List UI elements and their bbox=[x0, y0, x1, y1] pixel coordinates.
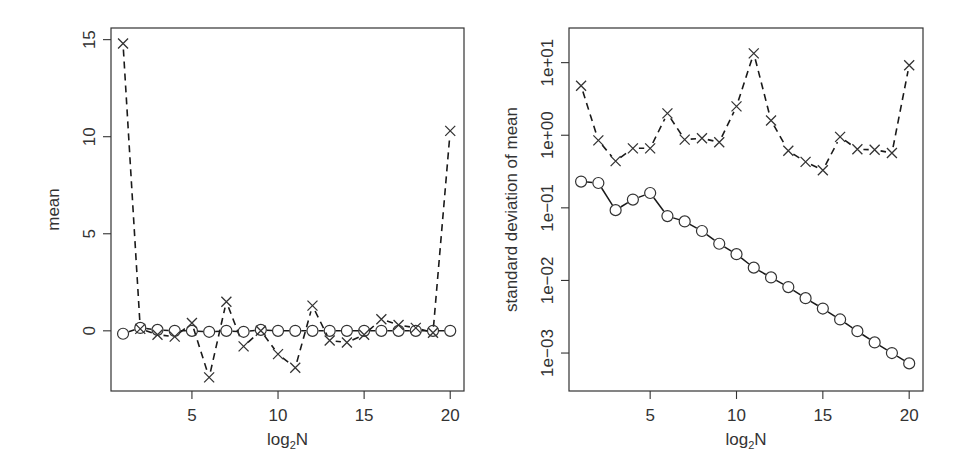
circle-marker bbox=[748, 262, 759, 273]
x-tick-label: 5 bbox=[187, 406, 196, 425]
mean-plot-y-label: mean bbox=[44, 188, 63, 231]
cross-marker bbox=[411, 323, 421, 333]
circle-marker bbox=[714, 238, 725, 249]
figure-canvas: 5101520 051015 mean log2N 5101520 1e−031… bbox=[0, 0, 967, 474]
circle-marker bbox=[783, 282, 794, 293]
circle-marker bbox=[645, 188, 656, 199]
y-tick-label: 0 bbox=[80, 326, 99, 335]
circle-marker bbox=[800, 293, 811, 304]
circle-marker bbox=[593, 177, 604, 188]
series-line bbox=[587, 182, 904, 360]
cross-marker bbox=[593, 135, 603, 145]
sd-plot-frame bbox=[569, 28, 923, 391]
x-tick-label: 20 bbox=[441, 406, 460, 425]
x-tick-label: 20 bbox=[900, 406, 919, 425]
y-tick-label: 5 bbox=[80, 229, 99, 238]
x-tick-label: 10 bbox=[727, 406, 746, 425]
cross-marker bbox=[766, 115, 776, 125]
circle-marker bbox=[152, 324, 163, 335]
cross-marker bbox=[118, 39, 128, 49]
cross-marker bbox=[662, 108, 672, 118]
mean-plot-x-label: log2N bbox=[267, 430, 308, 451]
sd-plot-y-axis: 1e−031e−021e−011e+001e+01 bbox=[538, 39, 569, 377]
cross-marker bbox=[273, 349, 283, 359]
cross-marker bbox=[732, 101, 742, 111]
cross-series bbox=[576, 48, 914, 175]
cross-marker bbox=[445, 126, 455, 136]
sd-plot-x-label: log2N bbox=[725, 430, 766, 451]
x-tick-label: 10 bbox=[269, 406, 288, 425]
x-tick-label: 5 bbox=[645, 406, 654, 425]
circle-marker bbox=[118, 328, 129, 339]
circle-marker bbox=[766, 272, 777, 283]
circle-marker bbox=[610, 205, 621, 216]
cross-marker bbox=[204, 372, 214, 382]
cross-marker bbox=[783, 146, 793, 156]
circle-marker bbox=[324, 325, 335, 336]
circle-marker bbox=[886, 348, 897, 359]
circle-marker bbox=[376, 325, 387, 336]
circle-marker bbox=[307, 325, 318, 336]
cross-marker bbox=[576, 81, 586, 91]
circle-marker bbox=[662, 211, 673, 222]
circle-marker bbox=[817, 303, 828, 314]
cross-marker bbox=[835, 132, 845, 142]
figure: 5101520 051015 mean log2N 5101520 1e−031… bbox=[0, 0, 967, 474]
cross-marker bbox=[697, 133, 707, 143]
circle-marker bbox=[869, 337, 880, 348]
cross-marker bbox=[239, 341, 249, 351]
cross-marker bbox=[290, 363, 300, 373]
cross-marker bbox=[376, 314, 386, 324]
series-line bbox=[129, 329, 445, 332]
y-tick-label: 1e+01 bbox=[538, 39, 557, 87]
circle-marker bbox=[904, 358, 915, 369]
y-tick-label: 1e−01 bbox=[538, 184, 557, 232]
y-tick-label: 15 bbox=[80, 30, 99, 49]
circle-marker bbox=[576, 176, 587, 187]
circle-marker bbox=[679, 216, 690, 227]
sd-plot-series bbox=[576, 48, 915, 368]
cross-marker bbox=[801, 157, 811, 167]
x-tick-label: 15 bbox=[355, 406, 374, 425]
cross-marker bbox=[307, 301, 317, 311]
circle-marker bbox=[341, 325, 352, 336]
circle-marker bbox=[273, 325, 284, 336]
sd-plot-x-axis: 5101520 bbox=[645, 391, 918, 425]
cross-marker bbox=[342, 337, 352, 347]
y-tick-label: 10 bbox=[80, 127, 99, 146]
circle-marker bbox=[410, 325, 421, 336]
circle-marker bbox=[835, 314, 846, 325]
cross-marker bbox=[749, 48, 759, 58]
y-tick-label: 1e−02 bbox=[538, 257, 557, 305]
circle-marker bbox=[428, 325, 439, 336]
circle-marker bbox=[238, 326, 249, 337]
cross-marker bbox=[221, 297, 231, 307]
circle-marker bbox=[204, 326, 215, 337]
circle-series bbox=[576, 176, 915, 369]
circle-marker bbox=[186, 325, 197, 336]
cross-marker bbox=[611, 156, 621, 166]
circle-marker bbox=[255, 324, 266, 335]
circle-marker bbox=[221, 325, 232, 336]
y-tick-label: 1e−03 bbox=[538, 329, 557, 377]
cross-marker bbox=[852, 144, 862, 154]
cross-marker bbox=[870, 145, 880, 155]
circle-marker bbox=[135, 322, 146, 333]
cross-marker bbox=[645, 143, 655, 153]
cross-marker bbox=[818, 165, 828, 175]
cross-marker bbox=[904, 60, 914, 70]
mean-plot-frame bbox=[111, 28, 464, 391]
cross-marker bbox=[680, 135, 690, 145]
circle-marker bbox=[393, 325, 404, 336]
circle-marker bbox=[852, 326, 863, 337]
sd-plot-y-label: standard deviation of mean bbox=[502, 107, 521, 312]
circle-marker bbox=[290, 325, 301, 336]
cross-marker bbox=[628, 143, 638, 153]
circle-marker bbox=[627, 194, 638, 205]
cross-marker bbox=[714, 137, 724, 147]
circle-marker bbox=[445, 325, 456, 336]
mean-plot-x-axis: 5101520 bbox=[187, 391, 459, 425]
circle-marker bbox=[696, 225, 707, 236]
sd-plot-panel: 5101520 1e−031e−021e−011e+001e+01 standa… bbox=[502, 28, 923, 451]
mean-plot-y-axis: 051015 bbox=[80, 30, 111, 335]
